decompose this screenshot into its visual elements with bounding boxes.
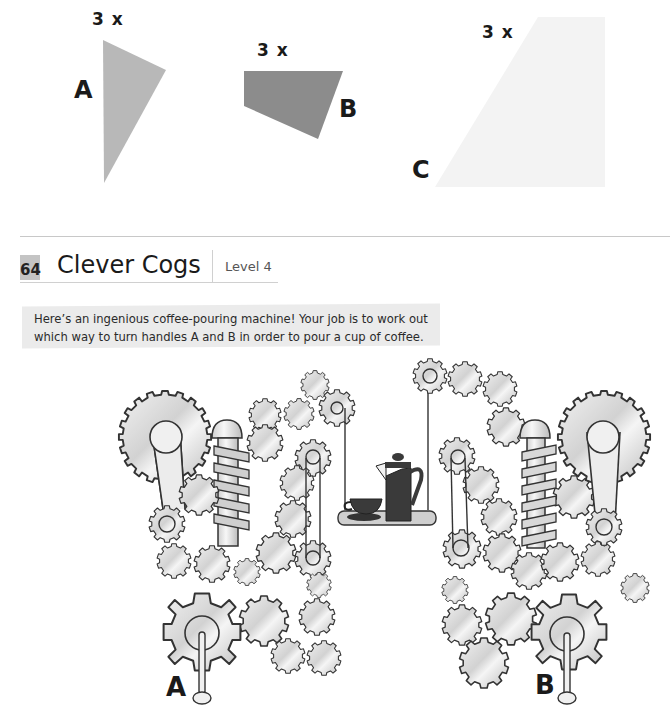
shape-c-trapezoid bbox=[435, 17, 605, 187]
handle-b-label: B bbox=[535, 670, 555, 700]
handle-b-knob bbox=[558, 692, 576, 704]
section-divider bbox=[20, 236, 670, 237]
shape-c-multiplier: 3 x bbox=[482, 22, 514, 42]
shape-a-label: A bbox=[74, 76, 93, 104]
puzzle-level: Level 4 bbox=[225, 256, 272, 278]
shape-a-triangle bbox=[103, 40, 166, 183]
shapes-illustration bbox=[0, 0, 670, 200]
shape-c-label: C bbox=[412, 156, 430, 184]
shape-b-multiplier: 3 x bbox=[257, 40, 289, 60]
coffee-machine-illustration bbox=[0, 340, 670, 724]
handle-a-label: A bbox=[166, 672, 186, 702]
header-separator bbox=[212, 250, 213, 282]
puzzle-header: 64 Clever Cogs Level 4 bbox=[20, 250, 278, 283]
shape-b-quadrilateral bbox=[244, 71, 343, 139]
handle-a-knob bbox=[193, 692, 211, 704]
shape-a-multiplier: 3 x bbox=[92, 9, 124, 29]
puzzle-title: Clever Cogs bbox=[57, 250, 201, 280]
puzzle-number: 64 bbox=[20, 255, 40, 280]
shape-b-label: B bbox=[339, 95, 357, 123]
